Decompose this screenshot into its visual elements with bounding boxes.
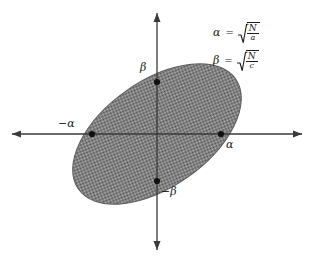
ellipse-diagram: −α α β −β α = N a β = <box>0 0 314 263</box>
formula-beta-numerator: N <box>247 52 257 61</box>
diagram-canvas <box>0 0 314 263</box>
formula-alpha-equals: = <box>225 27 233 38</box>
intercept-dot-beta <box>154 79 160 85</box>
formula-beta-symbol: β <box>213 54 219 67</box>
formula-alpha-symbol: α <box>213 26 220 39</box>
label-neg-alpha: −α <box>58 118 75 129</box>
intercept-dot-neg-alpha <box>89 131 95 137</box>
formula-beta-equals: = <box>224 55 232 66</box>
formula-alpha-numerator: N <box>248 24 258 33</box>
formula-beta-radical: N c <box>237 50 259 71</box>
label-beta: β <box>140 62 146 73</box>
radical-sign-icon <box>238 22 247 43</box>
label-alpha: α <box>226 139 233 150</box>
intercept-dot-neg-beta <box>154 178 160 184</box>
formula-alpha-denominator: a <box>247 33 259 42</box>
intercept-dot-alpha <box>218 131 224 137</box>
formula-beta-denominator: c <box>246 61 258 70</box>
formula-alpha-radical: N a <box>238 22 260 43</box>
formula-alpha-fraction: N a <box>247 22 260 43</box>
formula-beta-fraction: N c <box>246 50 259 71</box>
label-neg-beta: −β <box>161 186 177 197</box>
formula-beta: β = N c <box>213 50 259 71</box>
formula-alpha: α = N a <box>213 22 260 43</box>
radical-sign-icon <box>237 50 246 71</box>
